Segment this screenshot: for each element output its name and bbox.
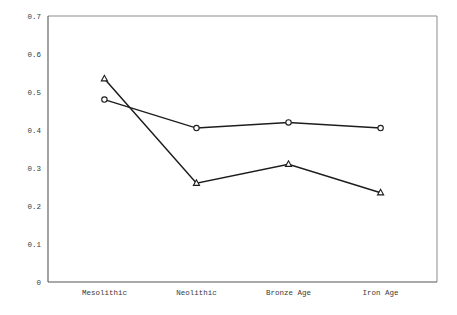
- data-point-marker: [378, 189, 384, 195]
- series-1: [102, 97, 384, 131]
- y-tick-label: 0.7: [27, 13, 41, 21]
- data-point-marker: [101, 75, 107, 81]
- x-category-label: Mesolithic: [82, 289, 127, 297]
- series-2: [101, 75, 383, 195]
- x-category-label: Bronze Age: [266, 289, 311, 297]
- y-tick-label: 0: [36, 279, 41, 287]
- chart-canvas: 00.10.20.30.40.50.60.7 MesolithicNeolith…: [0, 0, 457, 315]
- y-tick-label: 0.4: [27, 127, 41, 135]
- data-point-marker: [378, 125, 383, 130]
- x-category-label: Neolithic: [176, 289, 217, 297]
- data-point-marker: [286, 120, 291, 125]
- y-tick-labels: 00.10.20.30.40.50.60.7: [27, 13, 41, 287]
- series-line: [104, 100, 380, 129]
- data-series-group: [101, 75, 383, 195]
- plot-frame: [48, 16, 437, 282]
- y-tick-label: 0.3: [27, 165, 41, 173]
- y-tick-label: 0.2: [27, 203, 41, 211]
- data-point-marker: [102, 97, 107, 102]
- x-category-labels: MesolithicNeolithicBronze AgeIron Age: [82, 289, 399, 297]
- y-tick-label: 0.6: [27, 51, 41, 59]
- y-tick-label: 0.5: [27, 89, 41, 97]
- series-line: [104, 79, 380, 193]
- data-point-marker: [285, 161, 291, 167]
- data-point-marker: [194, 125, 199, 130]
- line-chart: 00.10.20.30.40.50.60.7 MesolithicNeolith…: [0, 0, 457, 315]
- x-category-label: Iron Age: [363, 289, 399, 297]
- y-tick-label: 0.1: [27, 241, 41, 249]
